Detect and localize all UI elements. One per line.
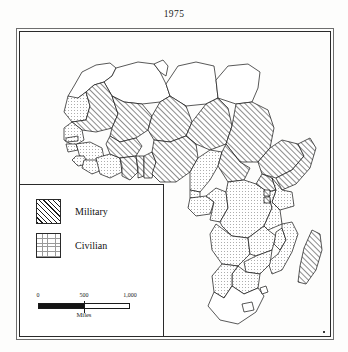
legend-swatch-military-icon — [36, 199, 61, 224]
legend-item-civilian: Civilian — [36, 233, 107, 258]
legend-label-civilian: Civilian — [75, 240, 107, 251]
legend-item-military: Military — [36, 199, 108, 224]
region-ghana — [120, 156, 138, 180]
map-figure: 1975 — [0, 0, 348, 352]
scale-fill — [39, 304, 84, 308]
scale-tick-1000: 1,000 — [123, 292, 137, 298]
corner-mark — [323, 331, 325, 333]
map-frame: Military Civilian 0 500 1,000 Miles — [16, 28, 334, 340]
region-burundi — [264, 197, 270, 203]
scale-track — [38, 303, 130, 309]
region-madagascar — [298, 230, 322, 284]
scale-tick-0: 0 — [37, 292, 40, 298]
region-egypt — [216, 64, 260, 104]
page-title: 1975 — [0, 9, 348, 19]
legend: Military Civilian 0 500 1,000 Miles — [20, 184, 164, 336]
region-rwanda — [264, 190, 270, 196]
region-lesotho — [242, 302, 254, 312]
scale-divider-mid — [84, 301, 85, 313]
scale-bar: 0 500 1,000 Miles — [38, 292, 130, 318]
scale-tick-500: 500 — [80, 292, 89, 298]
legend-swatch-civilian-icon — [36, 233, 61, 258]
legend-label-military: Military — [75, 206, 108, 217]
